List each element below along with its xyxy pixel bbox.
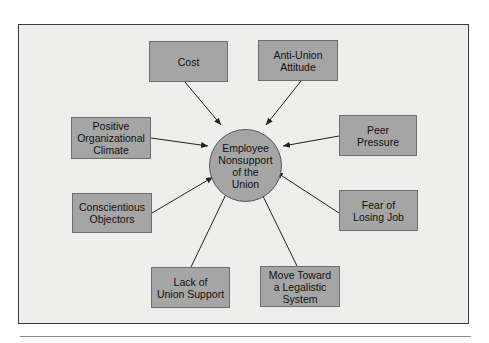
factor-label: Move Toward a Legalistic System xyxy=(269,269,331,305)
factor-cost: Cost xyxy=(149,41,228,82)
factor-conscientious-objectors: Conscientious Objectors xyxy=(72,193,152,233)
arrow-anti-union xyxy=(266,81,301,125)
arrow-peer-pressure xyxy=(283,136,339,146)
factor-move-toward-legalistic-system: Move Toward a Legalistic System xyxy=(260,266,340,307)
factor-peer-pressure: Peer Pressure xyxy=(339,115,417,156)
factor-label: Fear of Losing Job xyxy=(353,199,404,223)
factor-positive-organizational-climate: Positive Organizational Climate xyxy=(71,117,151,159)
factor-label: Peer Pressure xyxy=(357,124,399,148)
arrow-conscientious xyxy=(152,177,213,213)
arrow-cost xyxy=(185,82,221,125)
arrow-legalistic xyxy=(259,188,297,266)
factor-label: Positive Organizational Climate xyxy=(77,120,145,156)
center-label: Employee Nonsupport of the Union xyxy=(218,142,272,190)
factor-label: Conscientious Objectors xyxy=(79,201,145,225)
factor-label: Anti-Union Attitude xyxy=(273,49,322,73)
factor-fear-of-losing-job: Fear of Losing Job xyxy=(339,190,418,231)
arrow-fear xyxy=(276,172,339,213)
factor-anti-union-attitude: Anti-Union Attitude xyxy=(258,40,338,81)
arrow-positive-climate xyxy=(151,138,208,146)
center-node-employee-nonsupport: Employee Nonsupport of the Union xyxy=(209,129,282,202)
factor-label: Cost xyxy=(178,56,200,68)
bottom-rule xyxy=(20,336,471,337)
arrow-lack-support xyxy=(191,188,229,267)
factor-lack-of-union-support: Lack of Union Support xyxy=(151,267,230,308)
factor-label: Lack of Union Support xyxy=(157,276,224,300)
